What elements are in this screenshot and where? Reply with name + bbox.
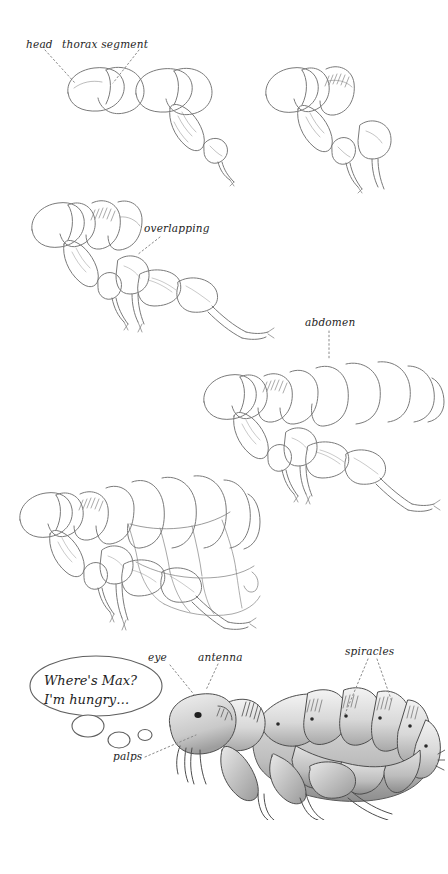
leader-spiracles-1 <box>345 659 368 714</box>
label-abdomen: abdomen <box>305 316 355 328</box>
label-palps: palps <box>113 750 142 762</box>
label-overlapping: overlapping <box>144 222 210 234</box>
leader-overlapping <box>137 237 160 255</box>
label-eye: eye <box>148 651 167 663</box>
label-head: head <box>26 38 53 50</box>
leader-spiracles-2 <box>377 659 392 702</box>
label-antenna: antenna <box>198 651 243 663</box>
label-thorax-segment: thorax segment <box>62 38 148 50</box>
label-spiracles: spiracles <box>345 645 394 657</box>
tutorial-canvas: Where's Max? I'm hungry… head thorax seg… <box>0 0 448 874</box>
leader-head <box>45 50 75 83</box>
leader-lines <box>0 0 448 874</box>
leader-palps <box>145 735 196 757</box>
leader-thorax-segment <box>113 50 139 83</box>
leader-antenna <box>206 664 218 690</box>
leader-eye <box>170 665 196 697</box>
